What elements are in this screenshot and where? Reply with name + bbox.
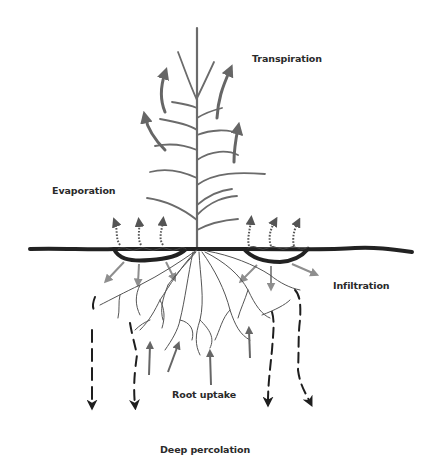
label-root-uptake: Root uptake [172, 389, 236, 400]
label-infiltration: Infiltration [333, 280, 389, 291]
label-transpiration: Transpiration [252, 53, 322, 64]
roots [100, 250, 300, 355]
root-uptake-arrow [168, 345, 178, 372]
water-balance-diagram [0, 0, 431, 475]
percolation-arrow [295, 290, 310, 402]
transpiration-arrow [161, 73, 165, 112]
infiltration-arrow [242, 265, 257, 280]
label-deep-percolation: Deep percolation [160, 444, 250, 455]
root-uptake-arrow [249, 330, 250, 358]
root-uptake-arrows [149, 330, 250, 385]
infiltration-arrow [107, 262, 124, 280]
deep-percolation-arrows [92, 290, 310, 405]
root-uptake-arrow [210, 353, 211, 385]
evaporation-arrow [293, 222, 298, 246]
evaporation-arrow [139, 222, 141, 245]
label-evaporation: Evaporation [52, 185, 116, 196]
transpiration-arrow [217, 70, 230, 118]
soil-surface-line [30, 248, 412, 252]
evaporation-arrow [161, 221, 163, 245]
infiltration-arrow [138, 264, 139, 283]
evaporation-arrows [115, 220, 298, 246]
plant [147, 28, 265, 250]
percolation-arrow [92, 297, 95, 405]
root-uptake-arrow [149, 345, 150, 375]
evaporation-arrow [248, 220, 251, 246]
percolation-arrow [130, 323, 137, 405]
percolation-arrow [268, 312, 274, 402]
transpiration-arrow [145, 117, 165, 150]
evaporation-arrow [270, 221, 275, 246]
evaporation-arrow [115, 222, 120, 245]
infiltration-arrow [292, 264, 315, 274]
